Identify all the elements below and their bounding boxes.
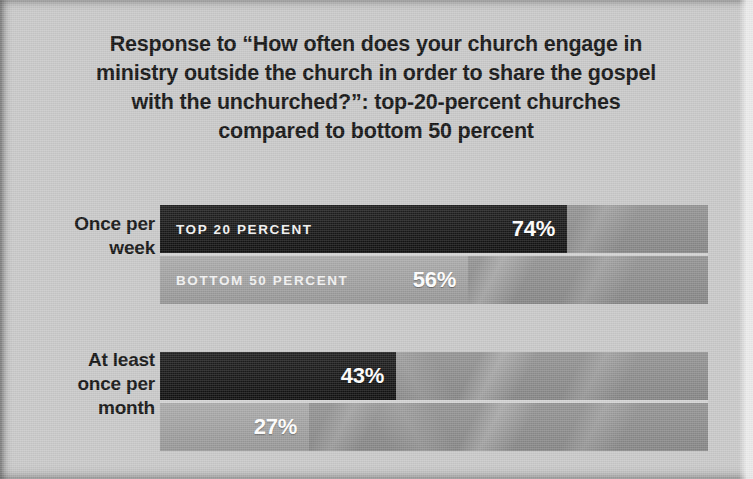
- chart-page: Response to “How often does your church …: [0, 0, 753, 479]
- bar-fill-top20-week: TOP 20 PERCENT 74%: [160, 205, 567, 253]
- bar-value-bottom50-month: 27%: [254, 414, 297, 440]
- category-label-line-3: month: [5, 396, 155, 420]
- category-label-once-per-week: Once per week: [5, 212, 155, 260]
- bar-value-bottom50-week: 56%: [413, 267, 456, 293]
- bar-fill-bottom50-week: BOTTOM 50 PERCENT 56%: [160, 256, 468, 304]
- bar-fill-bottom50-month: 27%: [160, 403, 309, 451]
- bar-track-top20-week: TOP 20 PERCENT 74%: [160, 205, 708, 253]
- category-label-line-2: week: [5, 236, 155, 260]
- bar-value-top20-week: 74%: [512, 216, 555, 242]
- category-label-line-2: once per: [5, 372, 155, 396]
- bar-track-bottom50-week: BOTTOM 50 PERCENT 56%: [160, 256, 708, 304]
- category-label-line-1: At least: [5, 348, 155, 372]
- series-label-top20: TOP 20 PERCENT: [176, 222, 313, 237]
- category-label-line-1: Once per: [5, 212, 155, 236]
- bar-chart: Once per week TOP 20 PERCENT 74% BOTTOM …: [0, 0, 753, 479]
- category-label-once-per-month: At least once per month: [5, 348, 155, 420]
- bar-track-bottom50-month: 27%: [160, 403, 708, 451]
- bar-track-top20-month: 43%: [160, 352, 708, 400]
- bar-value-top20-month: 43%: [341, 363, 384, 389]
- series-label-bottom50: BOTTOM 50 PERCENT: [176, 273, 348, 288]
- bar-fill-top20-month: 43%: [160, 352, 396, 400]
